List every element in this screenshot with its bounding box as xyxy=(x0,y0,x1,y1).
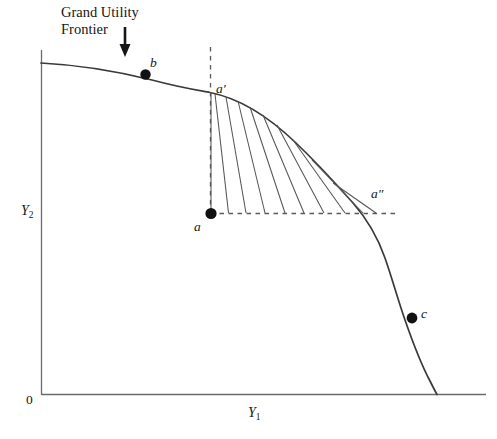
point-label-a-double-prime: a″ xyxy=(371,186,383,202)
y-axis-label: Y2 xyxy=(21,203,34,220)
point-label-a-prime: a′ xyxy=(216,81,226,97)
grand-utility-frontier-curve xyxy=(41,63,437,395)
point-marker-c xyxy=(407,313,418,324)
grand-utility-frontier-figure: Grand Utility Frontier Y2 Y1 0 b a′ a a″… xyxy=(0,0,497,439)
point-label-b: b xyxy=(150,55,157,71)
x-axis-label-text: Y xyxy=(248,405,256,420)
x-axis-label-subscript: 1 xyxy=(256,412,261,422)
origin-label: 0 xyxy=(26,392,33,408)
frontier-annotation-line1: Grand Utility xyxy=(61,4,139,20)
point-marker-a xyxy=(205,208,216,219)
x-axis-label: Y1 xyxy=(248,405,261,422)
point-label-c: c xyxy=(421,306,427,322)
figure-canvas xyxy=(0,0,497,439)
point-label-a: a xyxy=(194,219,201,235)
hatched-improvement-region xyxy=(211,93,376,213)
y-axis-label-text: Y xyxy=(21,203,29,218)
y-axis-label-subscript: 2 xyxy=(29,210,34,220)
frontier-annotation-label: Grand Utility Frontier xyxy=(61,4,139,38)
frontier-annotation-line2: Frontier xyxy=(61,21,139,38)
